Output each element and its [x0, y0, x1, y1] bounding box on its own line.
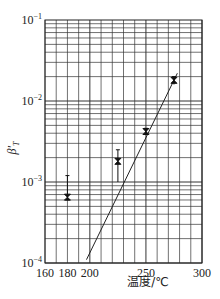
svg-text:300: 300	[193, 266, 211, 280]
svg-text:180: 180	[58, 266, 76, 280]
chart: 160180200250300 10−410−310−210−1 温度/℃ β′…	[0, 0, 220, 299]
svg-text:10−3: 10−3	[21, 174, 42, 189]
x-axis-ticks: 160180200250300	[36, 266, 211, 280]
y-axis-label: β′T	[5, 141, 21, 156]
svg-text:160: 160	[36, 266, 54, 280]
svg-text:10−1: 10−1	[21, 12, 42, 27]
grid	[45, 20, 202, 263]
svg-text:10−2: 10−2	[21, 93, 42, 108]
y-axis-ticks: 10−410−310−210−1	[21, 12, 42, 270]
svg-text:200: 200	[81, 266, 99, 280]
x-axis-label: 温度/℃	[127, 274, 169, 289]
